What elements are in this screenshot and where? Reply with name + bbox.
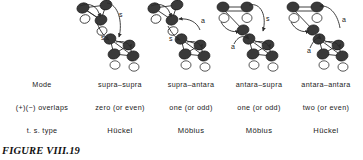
p-orbital-lobe-group-lower (103, 32, 140, 71)
cell-mode-supra-antara: supra–antara (154, 79, 228, 91)
orbital-diagram-antara-supra: s a (213, 0, 287, 74)
figure-caption: FIGURE VIII.19 (2, 145, 80, 156)
cell-ts-type-antara-antara: Hückel (289, 125, 363, 137)
stereo-label-top: s (266, 15, 270, 22)
table-row-ts-type: t. s. type Hückel Möbius Möbius Hückel (0, 124, 363, 146)
table-row-overlaps: (+)(−) overlaps zero (or even) one (or o… (0, 101, 363, 123)
table-row-mode: Mode supra–supra supra–antara antara–sup… (0, 78, 363, 100)
cell-overlaps-supra-antara: one (or odd) (154, 102, 228, 114)
cell-mode-antara-supra: antara–supra (222, 79, 296, 91)
cell-overlaps-antara-antara: two (or even) (289, 102, 363, 114)
stereo-label-bottom: s (169, 35, 173, 42)
cell-overlaps-supra-supra: zero (or even) (83, 102, 157, 114)
cell-ts-type-supra-antara: Möbius (154, 125, 228, 137)
p-orbital-lobe-group-lower (174, 32, 211, 71)
figure-viii-19: s s (0, 0, 363, 160)
cell-overlaps-antara-supra: one (or odd) (222, 102, 296, 114)
row-label-ts-type: t. s. type (2, 125, 82, 137)
stereo-label-top: a (201, 17, 205, 24)
orbital-diagram-supra-supra: s s (74, 0, 148, 74)
stereo-label-bottom: s (101, 34, 105, 41)
cell-ts-type-antara-supra: Möbius (222, 125, 296, 137)
stereo-label-bottom: a (307, 47, 311, 54)
orbital-diagram-antara-antara: a a (283, 0, 357, 74)
stereo-label-bottom: a (231, 43, 235, 50)
cell-ts-type-supra-supra: Hückel (83, 125, 157, 137)
row-label-overlaps: (+)(−) overlaps (2, 102, 82, 114)
orbital-diagram-supra-antara: a s (145, 0, 219, 74)
comparison-table: Mode supra–supra supra–antara antara–sup… (0, 74, 363, 144)
stereo-label-top: s (119, 11, 123, 18)
cell-mode-antara-antara: antara–antara (289, 79, 363, 91)
cell-mode-supra-supra: supra–supra (83, 79, 157, 91)
row-label-mode: Mode (2, 79, 82, 91)
orbital-diagram-row: s s (0, 0, 363, 74)
stereo-label-top: a (342, 16, 346, 23)
